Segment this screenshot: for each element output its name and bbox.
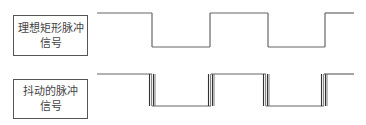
jitter-pulse-waveform [97, 74, 354, 106]
ideal-pulse-waveform [97, 13, 354, 47]
pulse-waveforms [0, 0, 366, 125]
